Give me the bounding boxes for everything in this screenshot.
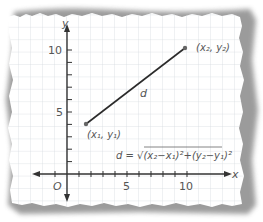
point-2-label: (x₂, y₂) [196, 42, 230, 53]
x-axis-label: x [231, 168, 239, 181]
graph-paper: y x O 10 5 5 10 d (x₂, y₂) (x₁, y₁) d = … [0, 0, 263, 222]
x-tick-label-5: 5 [123, 180, 130, 193]
segment-label: d [140, 87, 148, 100]
origin-label: O [53, 180, 62, 193]
distance-formula: d = √(x₂−x₁)²+(y₂−y₁)² [116, 150, 232, 161]
x-tick-label-10: 10 [179, 180, 193, 193]
y-axis-label: y [61, 17, 69, 30]
y-tick-label-5: 5 [56, 106, 63, 119]
paper-body [0, 0, 263, 222]
point-1-label: (x₁, y₁) [87, 129, 121, 140]
grid-lines [0, 0, 263, 222]
point-2-marker-icon [183, 46, 187, 50]
coordinate-plane-diagram: y x O 10 5 5 10 d (x₂, y₂) (x₁, y₁) d = … [0, 0, 263, 222]
y-tick-label-10: 10 [48, 44, 62, 57]
point-1-marker-icon [84, 122, 88, 126]
